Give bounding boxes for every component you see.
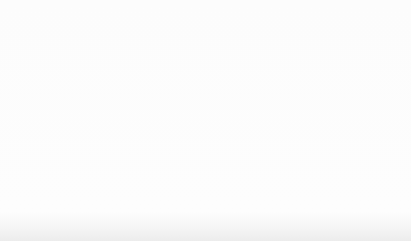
y-tick-label: 0.2 — [19, 168, 35, 180]
svg-text:4: 4 — [391, 17, 396, 26]
membership-function-chart: 0123456 00.20.40.60.81 μ1μ2μ3μ4 x Member… — [0, 0, 411, 241]
x-tick-label: 0 — [38, 217, 44, 229]
x-tick-label: 6 — [391, 217, 397, 229]
y-tick-label: 0.8 — [19, 58, 35, 70]
y-axis-title: Membership μ — [2, 77, 14, 147]
x-tick-label: 2 — [155, 217, 161, 229]
svg-text:μ: μ — [49, 10, 56, 22]
svg-text:2: 2 — [164, 17, 169, 26]
svg-text:3: 3 — [282, 17, 287, 26]
y-tick-labels: 00.20.40.60.81 — [19, 22, 36, 217]
y-tick-label: 0.4 — [19, 132, 36, 144]
x-axis-title: x — [214, 227, 221, 241]
y-tick-label: 0.6 — [19, 95, 35, 107]
x-tick-label: 4 — [273, 217, 280, 229]
x-tick-label: 1 — [97, 217, 103, 229]
svg-text:μ: μ — [155, 10, 162, 22]
svg-text:1: 1 — [58, 17, 63, 26]
svg-text:μ: μ — [273, 10, 280, 22]
figure-canvas: 0123456 00.20.40.60.81 μ1μ2μ3μ4 x Member… — [0, 0, 411, 241]
y-tick-label: 1 — [29, 22, 35, 34]
svg-text:μ: μ — [382, 10, 389, 22]
x-tick-label: 5 — [332, 217, 338, 229]
y-tick-label: 0 — [29, 205, 35, 217]
